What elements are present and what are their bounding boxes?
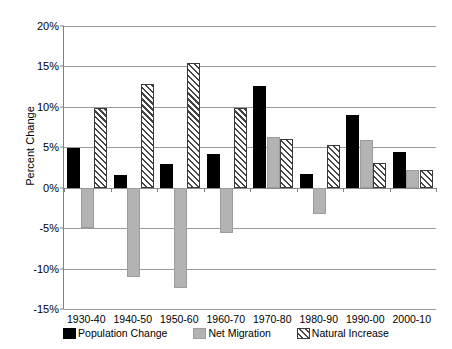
- bar-natural-increase[interactable]: [94, 108, 107, 188]
- y-axis-tick-label: -10%: [33, 263, 59, 275]
- legend-label: Population Change: [78, 327, 167, 339]
- bar-natural-increase[interactable]: [187, 63, 200, 188]
- gridline: [64, 309, 436, 310]
- legend-swatch-icon: [63, 328, 76, 339]
- legend-swatch-icon: [297, 328, 310, 339]
- y-axis-tick-label: 0%: [43, 182, 59, 194]
- bar-net-migration[interactable]: [360, 140, 373, 188]
- y-axis-tick-label: -15%: [33, 303, 59, 315]
- x-axis-tick-label: 1990-00: [346, 313, 385, 325]
- bar-natural-increase[interactable]: [327, 145, 340, 188]
- bar-group: [204, 26, 251, 309]
- bar-net-migration[interactable]: [174, 188, 187, 288]
- bar-population-change[interactable]: [393, 152, 406, 188]
- bar-group: [250, 26, 297, 309]
- bar-population-change[interactable]: [160, 164, 173, 187]
- legend-item[interactable]: Natural Increase: [297, 327, 389, 339]
- bar-net-migration[interactable]: [406, 170, 419, 188]
- x-axis-tick-mark: [436, 188, 437, 192]
- plot-area: 20%15%10%5%0%-5%-10%-15%: [63, 26, 435, 309]
- y-axis-tick-label: 5%: [43, 141, 59, 153]
- y-axis-tick-label: 20%: [37, 20, 59, 32]
- y-axis-tick-label: -5%: [39, 222, 59, 234]
- x-axis-tick-label: 1950-60: [160, 313, 199, 325]
- chart-legend: Population ChangeNet MigrationNatural In…: [0, 327, 452, 339]
- bar-net-migration[interactable]: [267, 137, 280, 188]
- x-axis-tick-label: 1930-40: [67, 313, 106, 325]
- y-axis-tick-label: 10%: [37, 101, 59, 113]
- x-axis-tick-label: 1970-80: [253, 313, 292, 325]
- bar-natural-increase[interactable]: [420, 170, 433, 188]
- legend-swatch-icon: [193, 328, 206, 339]
- y-axis-tick-label: 15%: [37, 60, 59, 72]
- bar-group: [111, 26, 158, 309]
- bar-group: [390, 26, 437, 309]
- legend-label: Natural Increase: [312, 327, 389, 339]
- bar-population-change[interactable]: [207, 154, 220, 188]
- legend-item[interactable]: Population Change: [63, 327, 167, 339]
- bar-group: [297, 26, 344, 309]
- x-axis-tick-label: 1960-70: [206, 313, 245, 325]
- bar-group: [157, 26, 204, 309]
- bar-natural-increase[interactable]: [141, 84, 154, 187]
- bar-net-migration[interactable]: [127, 188, 140, 278]
- bar-natural-increase[interactable]: [280, 139, 293, 188]
- bar-net-migration[interactable]: [81, 188, 94, 228]
- bar-group: [343, 26, 390, 309]
- bar-population-change[interactable]: [253, 86, 266, 188]
- legend-item[interactable]: Net Migration: [193, 327, 270, 339]
- bar-population-change[interactable]: [300, 174, 313, 188]
- bar-population-change[interactable]: [346, 115, 359, 188]
- bar-net-migration[interactable]: [313, 188, 326, 215]
- bar-population-change[interactable]: [67, 148, 80, 188]
- x-axis-tick-label: 1980-90: [299, 313, 338, 325]
- bar-natural-increase[interactable]: [234, 108, 247, 188]
- x-axis-tick-mark: [64, 188, 65, 192]
- bar-natural-increase[interactable]: [373, 163, 386, 187]
- bar-group: [64, 26, 111, 309]
- bar-net-migration[interactable]: [220, 188, 233, 233]
- x-axis-tick-label: 2000-10: [392, 313, 431, 325]
- percent-change-bar-chart: Percent Change 20%15%10%5%0%-5%-10%-15% …: [0, 0, 452, 349]
- legend-label: Net Migration: [208, 327, 270, 339]
- y-axis-title: Percent Change: [24, 56, 36, 236]
- x-axis-tick-label: 1940-50: [113, 313, 152, 325]
- bar-population-change[interactable]: [114, 175, 127, 188]
